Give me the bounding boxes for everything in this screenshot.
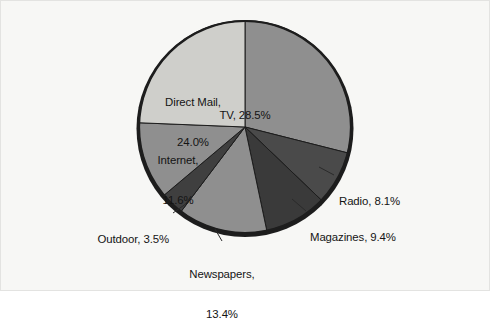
slice-label-outdoor-text: Outdoor, 3.5% bbox=[43, 233, 169, 246]
slice-label-internet-line2: 11.6% bbox=[133, 194, 223, 207]
slice-label-newspapers-line2: 13.4% bbox=[163, 308, 281, 321]
slice-label-magazines: Magazines, 9.4% bbox=[310, 205, 460, 271]
slice-label-magazines-text: Magazines, 9.4% bbox=[310, 231, 460, 244]
slice-label-newspapers: Newspapers, 13.4% bbox=[163, 242, 281, 322]
slice-label-newspapers-line1: Newspapers, bbox=[163, 268, 281, 281]
slice-label-internet-line1: Internet, bbox=[133, 154, 223, 167]
slice-label-outdoor: Outdoor, 3.5% bbox=[43, 207, 169, 273]
slice-label-direct-mail-line1: Direct Mail, bbox=[143, 96, 243, 109]
